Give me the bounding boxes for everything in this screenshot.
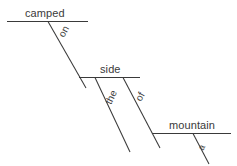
sentence-diagram-canvas: camped on side the of mountain a <box>0 0 237 166</box>
label-on: on <box>56 24 71 39</box>
label-the: the <box>103 88 119 106</box>
label-a: a <box>196 143 207 152</box>
sentence-diagram-svg: camped on side the of mountain a <box>0 0 237 166</box>
label-side: side <box>100 63 121 75</box>
label-mountain: mountain <box>169 119 215 131</box>
label-camped: camped <box>25 7 65 19</box>
the-slant-line <box>95 78 130 153</box>
of-slant-line <box>123 78 160 149</box>
